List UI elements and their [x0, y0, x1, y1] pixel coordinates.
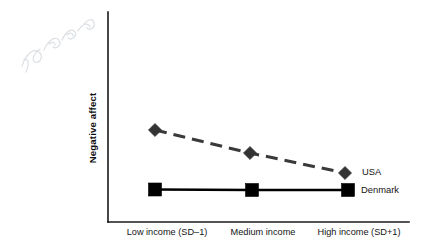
series-usa: [148, 123, 351, 179]
x-tick-label-high-income: High income (SD+1): [318, 227, 401, 237]
chart-legend: USA Denmark: [361, 166, 399, 195]
x-tick-label-low-income: Low income (SD–1): [127, 227, 208, 237]
usa-data-marker: [148, 123, 161, 136]
scan-artifact-smudge: [22, 20, 94, 72]
x-tick-label-medium-income: Medium income: [231, 227, 296, 237]
denmark-data-marker: [246, 184, 259, 197]
series-denmark: [149, 183, 355, 197]
chart-container: Negative affect Low income (SD–1) Medium…: [0, 0, 422, 247]
usa-data-marker: [338, 166, 351, 179]
negative-affect-line-chart: Negative affect Low income (SD–1) Medium…: [0, 0, 422, 247]
x-axis-tick-labels: Low income (SD–1) Medium income High inc…: [127, 227, 401, 237]
y-axis-title: Negative affect: [87, 92, 98, 163]
y-axis-title-group: Negative affect: [87, 92, 98, 163]
legend-label-usa: USA: [362, 166, 382, 177]
legend-label-denmark: Denmark: [361, 184, 399, 195]
denmark-data-marker: [342, 184, 355, 197]
usa-data-marker: [243, 146, 256, 159]
denmark-data-marker: [149, 183, 162, 196]
